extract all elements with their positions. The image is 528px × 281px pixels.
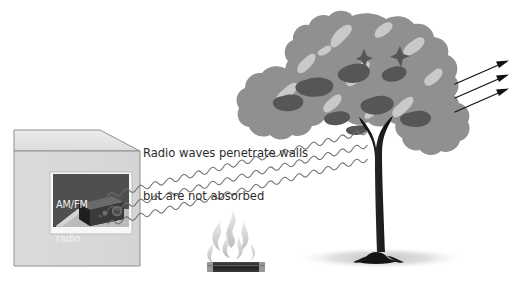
radio-knob [98,214,101,217]
campfire-grill-cap-left [207,262,213,272]
flame-outer-left [207,240,214,263]
radio-speaker-small [102,210,107,215]
radio-wave-2-arrowhead [496,75,509,83]
campfire-base [207,262,265,272]
radio-wave-2 [108,145,367,210]
flame-outer-right [250,238,255,261]
flame-inner-right [236,234,243,259]
radio-speaker-large-inner [114,208,120,214]
flame-left [212,219,222,251]
tree [237,11,470,269]
illustration-canvas [0,0,528,281]
room-box-top-face [14,130,140,151]
radio-wave-2-arrow-shaft [455,77,503,98]
radio-wave-3-arrowhead [496,89,509,97]
scene-svg [0,0,528,281]
campfire [207,205,265,272]
campfire-grill [207,262,265,272]
tree-trunk [359,116,393,252]
radio-wave-3-arrow-shaft [455,91,503,112]
radio-wave-1-arrow-shaft [455,63,503,84]
campfire-grill-cap-right [259,262,265,272]
radio-wave-1 [108,131,367,196]
radio-wave-1-arrowhead [496,61,509,69]
radio-panel-group [50,172,132,234]
campfire-grill-highlight [207,265,265,266]
campfire-flames [207,205,255,263]
radio-wave-3 [108,159,367,224]
